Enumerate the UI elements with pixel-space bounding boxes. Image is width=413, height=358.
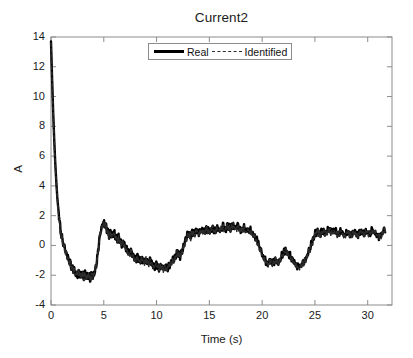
y-tick-label: 6 (19, 149, 45, 161)
data-series (51, 41, 385, 281)
x-axis-label: Time (s) (51, 333, 392, 345)
y-tick-label: 4 (19, 179, 45, 191)
y-tick-label: 10 (19, 90, 45, 102)
series-line-real (51, 41, 385, 281)
x-tick-label: 0 (36, 309, 66, 321)
y-tick-label: 14 (19, 30, 45, 42)
y-tick-label: -2 (19, 268, 45, 280)
series-line-identified (51, 43, 385, 281)
legend: Real Identified (148, 43, 292, 60)
x-tick-label: 10 (142, 309, 172, 321)
plot-frame (51, 37, 392, 305)
legend-label-identified: Identified (245, 46, 288, 58)
y-tick-label: 0 (19, 238, 45, 250)
legend-dashed-line-icon (212, 51, 242, 52)
x-tick-label: 15 (194, 309, 224, 321)
x-tick-label: 5 (89, 309, 119, 321)
x-tick-label: 30 (353, 309, 383, 321)
legend-solid-line-icon (154, 50, 184, 53)
legend-entry-identified: Identified (212, 46, 288, 58)
y-tick-label: 2 (19, 209, 45, 221)
figure-canvas: Current2 A Time (s) -4-202468101214 0510… (0, 0, 413, 358)
y-tick-label: 8 (19, 119, 45, 131)
axis-ticks (51, 37, 392, 305)
legend-entry-real: Real (154, 46, 209, 58)
legend-label-real: Real (187, 46, 209, 58)
y-tick-label: 12 (19, 60, 45, 72)
x-tick-label: 25 (300, 309, 330, 321)
legend-entries: Real Identified (149, 44, 291, 59)
x-tick-label: 20 (247, 309, 277, 321)
axes-frame (51, 37, 392, 305)
